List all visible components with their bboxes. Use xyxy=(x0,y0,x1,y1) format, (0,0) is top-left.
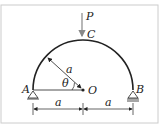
label-p: P xyxy=(85,10,94,23)
angle-arc xyxy=(72,83,75,90)
label-c: C xyxy=(87,28,96,41)
dimension-lines xyxy=(33,103,133,115)
label-dim-left: a xyxy=(55,96,62,109)
label-theta: θ xyxy=(62,77,69,90)
label-o: O xyxy=(88,84,97,97)
arch-diagram: P C A B O a θ a a xyxy=(0,0,165,128)
label-dim-right: a xyxy=(105,96,112,109)
center-point xyxy=(81,88,84,91)
frame xyxy=(1,5,158,123)
semicircular-arch xyxy=(33,40,133,90)
label-a-support: A xyxy=(21,83,30,96)
label-b-support: B xyxy=(135,83,144,96)
label-radius: a xyxy=(66,63,73,76)
